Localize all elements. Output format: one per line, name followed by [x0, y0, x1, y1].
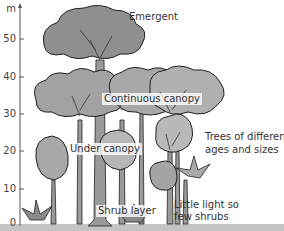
label-little-light-line2: few shrubs	[174, 211, 229, 223]
axis-tick-20: 20	[0, 146, 16, 156]
label-shrub-layer: Shrub layer	[96, 205, 158, 217]
axis-tick-0: 0	[0, 218, 16, 228]
label-little-light-line1: Little light so	[174, 199, 239, 211]
axis-tick-50: 50	[0, 34, 16, 44]
label-emergent: Emergent	[129, 11, 178, 23]
axis-tick-40: 40	[0, 72, 16, 82]
axis-tick-30: 30	[0, 109, 16, 119]
axis-tick-10: 10	[0, 184, 16, 194]
label-trees-different-line1: Trees of different	[205, 131, 284, 143]
label-trees-different-line2: ages and sizes	[205, 144, 279, 156]
rainforest-diagram: m 50 40 30 20 10 0 Emergent Continuous c…	[0, 0, 284, 231]
label-under-canopy: Under canopy	[68, 143, 142, 155]
ground	[0, 224, 284, 231]
axis-unit-label: m	[0, 4, 16, 14]
rainforest-illustration	[0, 0, 284, 231]
label-continuous-canopy: Continuous canopy	[102, 93, 202, 105]
